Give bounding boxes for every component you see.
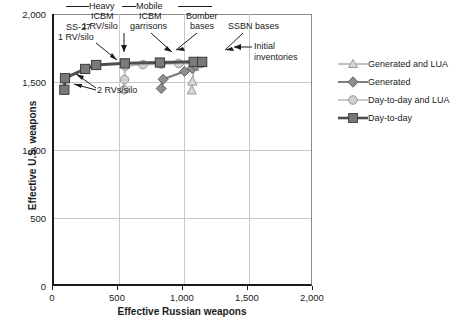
gridline-y-1500	[54, 82, 311, 83]
gridline-x-500	[119, 14, 120, 284]
gridline-x-1500	[249, 14, 250, 284]
legend-marker-diamond-icon	[338, 75, 368, 89]
y-tick-1000: 1,000	[0, 145, 46, 156]
x-tick-1000: 1,000	[170, 292, 194, 303]
legend-marker-circle-icon	[338, 93, 368, 107]
legend-item-day-to-day-and-lua[interactable]: Day-to-day and LUA	[338, 92, 476, 108]
annotation-bomber-line2: bases	[190, 21, 214, 32]
annotation-bomber-line1: Bomber	[186, 11, 218, 22]
annotation-initial-line1: Initial	[254, 41, 275, 52]
annotation-ssbn-bases: SSBN bases	[228, 21, 279, 32]
x-tickmark-0	[52, 286, 53, 290]
annotation-ss27-line2: 1 RV/silo	[58, 32, 94, 43]
legend-item-generated-and-lua[interactable]: Generated and LUA	[338, 56, 476, 72]
chart-legend: Generated and LUA Generated Day-to-day a…	[338, 56, 476, 128]
y-axis-label: Effective U.S. weapons	[27, 36, 38, 276]
annotation-ss27-line1: SS-27	[66, 22, 91, 33]
y-tick-2000: 2,000	[0, 9, 46, 20]
x-tick-500: 500	[109, 292, 125, 303]
gridline-y-500	[54, 218, 311, 219]
x-tick-2000: 2,000	[300, 292, 324, 303]
x-tickmark-500	[117, 286, 118, 290]
legend-item-generated[interactable]: Generated	[338, 74, 476, 90]
annotation-initial-line2: inventories	[254, 52, 298, 63]
gridline-x-1000	[184, 14, 185, 284]
annotation-mobile: Mobile	[136, 1, 163, 12]
gridline-y-1000	[54, 150, 311, 151]
chart-figure: 2,000 1,500 1,000 500 0 0 500 1,000 1,50…	[0, 0, 476, 326]
x-tickmark-1500	[247, 286, 248, 290]
legend-item-day-to-day[interactable]: Day-to-day	[338, 110, 476, 126]
x-tickmark-2000	[312, 286, 313, 290]
x-tickmark-1000	[182, 286, 183, 290]
legend-label-day-to-day: Day-to-day	[368, 113, 412, 123]
annotation-mobile-icbm: ICBM	[139, 11, 162, 22]
legend-label-generated-and-lua: Generated and LUA	[368, 59, 448, 69]
y-tick-500: 500	[0, 213, 46, 224]
annotation-heavy: Heavy	[89, 1, 115, 12]
x-tick-0: 0	[49, 292, 54, 303]
y-tick-0: 0	[0, 281, 46, 292]
bracket-rule-left	[66, 6, 89, 7]
annotation-mobile-garrisons: garrisons	[130, 21, 167, 32]
legend-label-day-to-day-and-lua: Day-to-day and LUA	[368, 95, 450, 105]
legend-marker-triangle-icon	[338, 57, 368, 71]
x-tick-1500: 1,500	[235, 292, 259, 303]
annotation-heavy-icbm: ICBM	[91, 11, 114, 22]
bracket-rule-right	[178, 6, 212, 7]
bracket-rule-middle	[122, 6, 136, 7]
x-axis-label: Effective Russian weapons	[52, 306, 312, 317]
legend-label-generated: Generated	[368, 77, 411, 87]
annotation-two-rvs: 2 RVs/silo	[97, 85, 137, 96]
y-tick-1500: 1,500	[0, 77, 46, 88]
legend-marker-square-icon	[338, 111, 368, 125]
